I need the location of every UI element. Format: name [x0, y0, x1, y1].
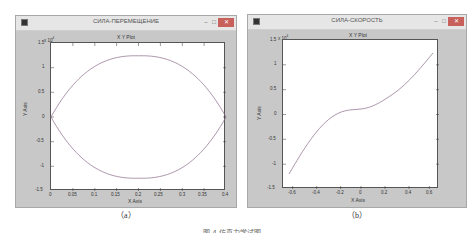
maximize-button[interactable]: □	[210, 18, 218, 27]
y-axis-label: Y Axis	[22, 102, 28, 116]
y-axis-label: Y Axis	[256, 106, 262, 120]
x-axis-label: X Axis	[351, 197, 365, 203]
chart-svg	[51, 43, 226, 191]
title-bar[interactable]: СИЛА-СКОРОСТЬ – □ ✕	[248, 15, 466, 30]
plot-area	[50, 42, 225, 190]
minimize-button[interactable]: –	[432, 17, 440, 26]
title-bar[interactable]: СИЛА-ПЕРЕМЕЩЕНИЕ – □ ✕	[16, 16, 236, 31]
upper-curve	[51, 56, 226, 117]
plot-area	[282, 39, 438, 188]
window-force-displacement: СИЛА-ПЕРЕМЕЩЕНИЕ – □ ✕ X Y Plot x 104	[15, 15, 237, 208]
figure-caption: 图 4 仿真力学试图	[203, 227, 261, 233]
caption-a: （a）	[116, 209, 136, 220]
lower-curve	[51, 117, 226, 178]
caption-b: （b）	[347, 209, 367, 220]
chart-svg	[283, 40, 439, 189]
minimize-button[interactable]: –	[202, 18, 210, 27]
force-velocity-curve	[289, 53, 433, 174]
x-axis-label: X Axis	[128, 198, 142, 204]
close-button[interactable]: ✕	[448, 17, 464, 26]
maximize-button[interactable]: □	[440, 17, 448, 26]
window-force-velocity: СИЛА-СКОРОСТЬ – □ ✕ X Y Plot x 104 1	[247, 14, 467, 208]
plot-title: X Y Plot	[328, 32, 388, 38]
close-button[interactable]: ✕	[218, 18, 234, 27]
plot-title: X Y Plot	[96, 34, 156, 40]
